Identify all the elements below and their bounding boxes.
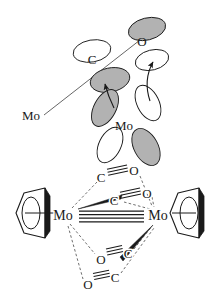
label-c-bottom-outer: C	[111, 270, 120, 285]
co-bottom-inner-line-2	[107, 249, 123, 252]
orbital-lobe-mo-upper-right-empty	[130, 81, 166, 125]
label-c-top-inner: C	[110, 193, 119, 208]
co-triple-bond-bottom-outer	[93, 270, 110, 279]
orbital-lobe-o-upper-shaded	[126, 14, 168, 45]
co-bottom-outer-line-1	[93, 270, 109, 273]
cp-ring-right-thick-edge	[199, 188, 204, 238]
figure-container: C O Mo Mo	[0, 0, 221, 307]
orbital-interaction-diagram: C O Mo Mo	[22, 14, 171, 171]
dashed-bond-group	[68, 176, 154, 279]
label-molybdenum-left: Mo	[22, 108, 40, 123]
dashed-bond-co-top-inner-mo-right	[124, 202, 150, 209]
co-triple-bond-top-inner	[120, 188, 141, 198]
co-bottom-outer-line-2	[94, 273, 110, 276]
label-c-bottom-inner: C	[124, 246, 133, 261]
cp-ring-left	[16, 188, 51, 238]
label-o-bottom-inner: O	[96, 252, 105, 267]
label-carbon-upper: C	[88, 52, 97, 67]
label-o-bottom-outer: O	[83, 277, 92, 292]
co-triple-bond-top-outer	[107, 165, 128, 175]
mo-mo-quadruple-bond	[79, 211, 144, 222]
label-molybdenum-center: Mo	[115, 118, 133, 133]
cp2mo2-co4-structure: Mo Mo C O C O C O C O	[16, 163, 204, 292]
dashed-bond-co-top-inner-o-mo-right	[152, 197, 154, 207]
label-mo-right: Mo	[148, 208, 167, 223]
orbital-lobe-o-lower-empty	[133, 46, 171, 74]
cp-ring-right	[170, 188, 204, 238]
label-oxygen-upper: O	[137, 34, 146, 49]
dashed-bond-mo-left-co-bottom-inner	[70, 224, 95, 254]
chemistry-figure: C O Mo Mo	[0, 0, 221, 307]
label-o-top-inner: O	[142, 186, 151, 201]
co-bottom-outer-line-3	[94, 276, 110, 279]
co-triple-bond-bottom-inner	[106, 246, 123, 255]
label-o-top-outer: O	[129, 163, 138, 178]
dashed-bond-mo-left-co-bottom-outer	[68, 226, 83, 279]
co-bottom-inner-line-3	[107, 252, 123, 255]
label-c-top-outer: C	[97, 170, 106, 185]
label-mo-left: Mo	[53, 208, 72, 223]
co-bottom-inner-line-1	[106, 246, 122, 249]
